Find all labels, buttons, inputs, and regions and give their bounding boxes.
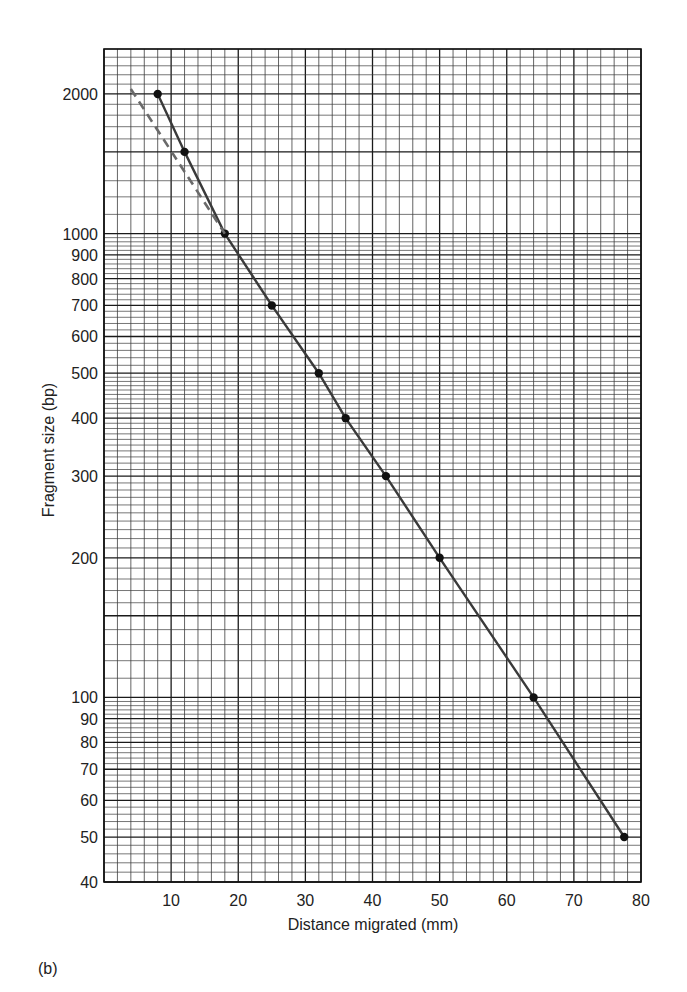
data-point-marker [382,472,390,480]
y-tick-label: 200 [71,550,98,567]
y-tick-label: 800 [71,271,98,288]
x-tick-label: 50 [431,892,449,909]
panel-label: (b) [38,960,58,978]
x-tick-label: 80 [632,892,650,909]
y-tick-label: 600 [71,328,98,345]
y-tick-label: 90 [80,711,98,728]
x-axis-tick-labels: 1020304050607080 [162,892,650,909]
data-series [131,89,629,841]
x-tick-label: 40 [364,892,382,909]
y-tick-label: 900 [71,247,98,264]
y-tick-label: 100 [71,689,98,706]
extrapolation-dashed-line [131,89,225,234]
data-point-marker [620,833,628,841]
data-point-marker [341,414,349,422]
y-tick-label: 70 [80,761,98,778]
y-axis-title: Fragment size (bp) [40,383,57,517]
graph-paper-grid [104,49,641,882]
y-tick-label: 50 [80,829,98,846]
y-tick-label: 60 [80,792,98,809]
x-tick-label: 30 [296,892,314,909]
x-tick-label: 10 [162,892,180,909]
standard-curve-chart: 4050607080901002003004005006007008009001… [0,0,687,992]
y-tick-label: 700 [71,297,98,314]
y-tick-label: 80 [80,734,98,751]
y-tick-label: 2000 [62,86,98,103]
data-point-marker [154,90,162,98]
standard-curve-line [158,94,625,837]
data-point-marker [268,301,276,309]
x-tick-label: 20 [229,892,247,909]
data-point-marker [435,554,443,562]
y-tick-label: 500 [71,365,98,382]
y-axis-tick-labels: 4050607080901002003004005006007008009001… [62,86,98,891]
y-tick-label: 1000 [62,226,98,243]
data-point-marker [315,369,323,377]
x-tick-label: 60 [498,892,516,909]
data-point-marker [529,693,537,701]
y-tick-label: 300 [71,468,98,485]
data-point-marker [180,148,188,156]
y-tick-label: 400 [71,410,98,427]
y-tick-label: 40 [80,874,98,891]
x-tick-label: 70 [565,892,583,909]
x-axis-title: Distance migrated (mm) [288,916,459,933]
